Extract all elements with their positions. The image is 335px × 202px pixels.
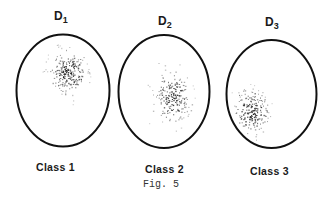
scatter-point [63, 72, 64, 73]
scatter-point [252, 112, 253, 113]
scatter-point [64, 61, 65, 62]
scatter-point [245, 98, 246, 99]
scatter-point [179, 84, 180, 85]
scatter-point [82, 70, 83, 71]
scatter-point [167, 97, 168, 98]
scatter-point [260, 105, 261, 106]
scatter-point [241, 99, 242, 100]
scatter-point [87, 64, 88, 65]
scatter-point [258, 94, 259, 95]
scatter-point [158, 63, 159, 64]
scatter-point [181, 101, 182, 102]
scatter-point [63, 62, 64, 63]
scatter-point [72, 79, 73, 80]
scatter-point [251, 101, 252, 102]
domain-label-d1: D1 [54, 10, 68, 22]
scatter-point [70, 60, 71, 61]
scatter-point [58, 85, 59, 86]
scatter-point [252, 110, 253, 111]
scatter-point [259, 100, 260, 101]
scatter-point [170, 72, 171, 73]
scatter-point [244, 118, 245, 119]
scatter-point [48, 59, 49, 60]
scatter-point [180, 79, 181, 80]
scatter-point [71, 77, 72, 78]
scatter-point [58, 44, 59, 45]
scatter-point [89, 72, 90, 73]
scatter-point [193, 85, 194, 86]
scatter-point [65, 81, 66, 82]
scatter-point [163, 113, 164, 114]
scatter-point [241, 116, 242, 117]
scatter-point [253, 99, 254, 100]
scatter-point [172, 86, 173, 87]
scatter-point [53, 72, 54, 73]
scatter-point [167, 111, 168, 112]
scatter-point [65, 76, 66, 77]
scatter-point [162, 77, 163, 78]
scatter-point [72, 59, 73, 60]
scatter-point [185, 86, 186, 87]
scatter-point [71, 65, 72, 66]
scatter-point [64, 78, 65, 79]
scatter-point [246, 121, 247, 122]
scatter-point [252, 116, 253, 117]
scatter-point [177, 87, 178, 88]
scatter-point [175, 91, 176, 92]
scatter-point [260, 124, 261, 125]
scatter-point [180, 95, 181, 96]
scatter-point [58, 47, 59, 48]
scatter-point [181, 103, 182, 104]
scatter-point [258, 90, 259, 91]
scatter-point [162, 89, 163, 90]
scatter-point [186, 97, 187, 98]
scatter-point [254, 108, 255, 109]
scatter-point [161, 103, 162, 104]
scatter-point [241, 111, 242, 112]
scatter-point [261, 120, 262, 121]
scatter-point [70, 78, 71, 79]
scatter-cluster-class-3 [232, 84, 273, 141]
scatter-point [260, 110, 261, 111]
scatter-point [184, 82, 185, 83]
scatter-point [176, 96, 177, 97]
scatter-point [183, 90, 184, 91]
scatter-point [68, 74, 69, 75]
scatter-point [61, 58, 62, 59]
scatter-point [72, 95, 73, 96]
class-label-3: Class 3 [250, 166, 289, 177]
scatter-point [175, 85, 176, 86]
scatter-point [60, 61, 61, 62]
scatter-point [181, 128, 182, 129]
scatter-point [184, 103, 185, 104]
scatter-point [89, 82, 90, 83]
scatter-point [71, 74, 72, 75]
scatter-point [59, 63, 60, 64]
scatter-point [65, 83, 66, 84]
scatter-point [240, 100, 241, 101]
scatter-point [162, 122, 163, 123]
scatter-point [169, 102, 170, 103]
scatter-point [249, 124, 250, 125]
scatter-point [179, 92, 180, 93]
scatter-point [58, 70, 59, 71]
scatter-point [261, 128, 262, 129]
scatter-point [73, 67, 74, 68]
scatter-point [254, 127, 255, 128]
scatter-point [258, 119, 259, 120]
scatter-point [80, 59, 81, 60]
scatter-point [178, 119, 179, 120]
scatter-point [263, 122, 264, 123]
scatter-point [250, 128, 251, 129]
scatter-point [261, 95, 262, 96]
scatter-point [59, 81, 60, 82]
scatter-point [242, 122, 243, 123]
scatter-point [65, 74, 66, 75]
scatter-point [75, 87, 76, 88]
scatter-point [66, 63, 67, 64]
scatter-point [252, 104, 253, 105]
scatter-point [253, 125, 254, 126]
scatter-point [179, 118, 180, 119]
scatter-point [184, 112, 185, 113]
scatter-cluster-class-1 [43, 44, 92, 105]
